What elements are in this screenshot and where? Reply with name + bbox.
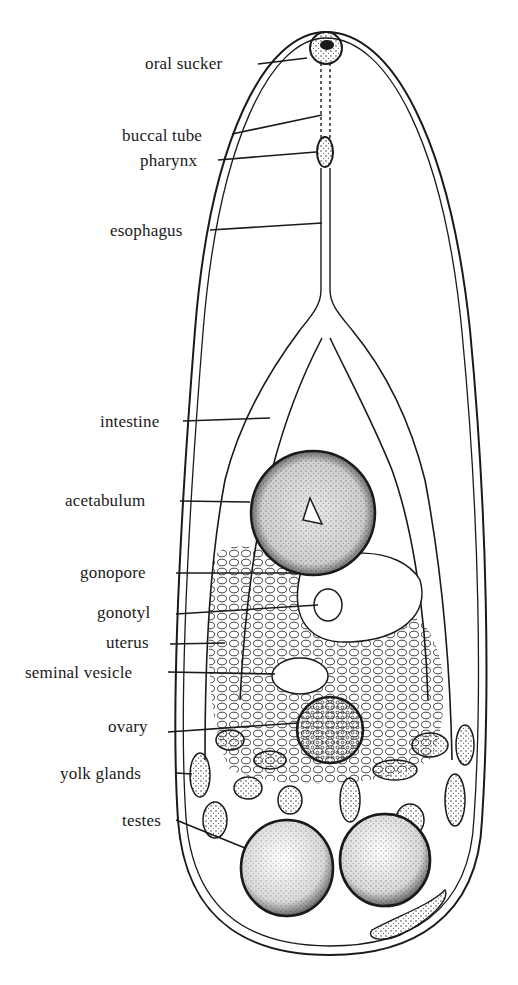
label-seminal-vesicle: seminal vesicle xyxy=(25,664,132,681)
pharynx-shape xyxy=(317,137,333,167)
trematode-diagram: oral sucker buccal tube pharynx esophagu… xyxy=(0,0,518,985)
label-gonotyl: gonotyl xyxy=(97,604,150,621)
label-ovary: ovary xyxy=(108,718,148,735)
testes-shape xyxy=(241,814,430,916)
oral-sucker-shape xyxy=(310,32,342,64)
label-testes: testes xyxy=(122,812,161,829)
label-pharynx: pharynx xyxy=(140,152,197,169)
label-uterus: uterus xyxy=(106,634,149,651)
label-yolk-glands: yolk glands xyxy=(60,765,141,782)
acetabulum-shape xyxy=(251,451,375,575)
label-intestine: intestine xyxy=(100,413,159,430)
label-oral-sucker: oral sucker xyxy=(145,55,222,72)
label-acetabulum: acetabulum xyxy=(65,492,145,509)
label-esophagus: esophagus xyxy=(110,222,183,239)
ovary-shape xyxy=(297,697,363,763)
esophagus-shape xyxy=(300,63,352,330)
label-buccal-tube: buccal tube xyxy=(122,127,202,144)
label-gonopore: gonopore xyxy=(80,564,146,581)
